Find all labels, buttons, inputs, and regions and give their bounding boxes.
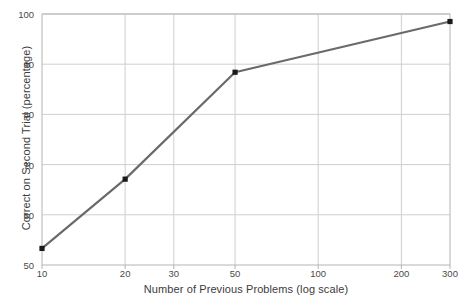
x-axis-tick-label: 20	[120, 268, 131, 279]
y-axis-tick-label: 80	[0, 109, 38, 120]
data-point-marker[interactable]	[447, 19, 452, 24]
x-axis-tick-label: 50	[230, 268, 241, 279]
x-axis-tick-label: 100	[310, 268, 326, 279]
chart-figure: 5060708090100 10203050100200300 Correct …	[0, 0, 459, 299]
data-point-marker[interactable]	[123, 177, 128, 182]
x-axis-tick-label: 300	[442, 268, 458, 279]
y-axis-tick-label: 60	[0, 209, 38, 220]
y-axis-tick-label: 70	[0, 159, 38, 170]
x-axis-title: Number of Previous Problems (log scale)	[42, 283, 450, 295]
plot-background	[42, 14, 450, 265]
y-axis-title: Correct on Second Trial (percentage)	[20, 18, 32, 258]
x-axis-tick-label: 200	[393, 268, 409, 279]
y-axis-tick-label: 50	[0, 260, 38, 271]
data-point-marker[interactable]	[232, 70, 237, 75]
y-axis-tick-label: 90	[0, 59, 38, 70]
y-axis-tick-labels: 5060708090100	[0, 0, 38, 299]
x-axis-tick-label: 30	[168, 268, 179, 279]
data-point-marker[interactable]	[39, 246, 44, 251]
y-axis-tick-label: 100	[0, 9, 38, 20]
x-axis-tick-label: 10	[37, 268, 48, 279]
chart-plot-area	[0, 0, 459, 299]
